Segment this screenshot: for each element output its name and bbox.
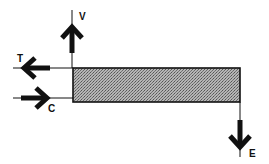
label-e: E	[249, 148, 256, 159]
label-t: T	[17, 53, 23, 64]
force-c-arrow	[13, 88, 73, 108]
label-c: C	[48, 103, 55, 114]
label-v: V	[79, 11, 86, 22]
force-e-arrow	[230, 102, 250, 157]
force-diagram: V T C E	[0, 0, 269, 164]
stippled-block	[73, 68, 240, 102]
